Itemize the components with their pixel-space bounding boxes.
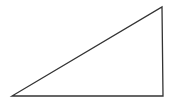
- right-triangle: [12, 7, 163, 96]
- diagram-canvas: [0, 0, 175, 106]
